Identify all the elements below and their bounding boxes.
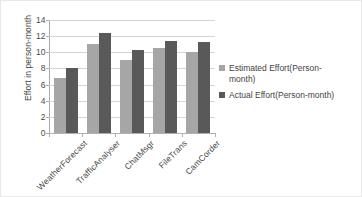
bar-trafficanalyser-actual	[99, 33, 111, 133]
bar-filetrans-estimated	[153, 48, 165, 133]
x-tick-mark-2	[115, 133, 116, 137]
y-tick-label-8: 8	[41, 63, 46, 73]
x-axis-tick-marks	[49, 133, 215, 137]
bar-filetrans-actual	[165, 41, 177, 133]
x-label-chatmsgr: ChatMsgr	[122, 138, 156, 172]
bar-group-camcorder	[182, 20, 215, 133]
legend-label: Estimated Effort(Person-month)	[229, 63, 341, 85]
bar-camcorder-estimated	[186, 52, 198, 133]
x-tick-mark-0	[49, 133, 50, 137]
x-tick-mark-3	[149, 133, 150, 137]
x-axis-category-labels: WeatherForecastTrafficAnalyserChatMsgrFi…	[49, 138, 215, 196]
legend-swatch-icon-estimated	[219, 65, 225, 71]
y-tick-label-10: 10	[36, 47, 45, 57]
bar-group-chatmsgr	[115, 20, 148, 133]
x-label-filetrans: FileTrans	[157, 138, 190, 171]
bar-group-weatherforecast	[49, 20, 82, 133]
plot-area: 02468101214	[49, 20, 215, 133]
bar-weatherforecast-actual	[66, 68, 78, 133]
y-tick-label-2: 2	[41, 112, 46, 122]
bar-chart: Effort in person-month 02468101214 Weath…	[0, 0, 362, 197]
bars-layer	[49, 20, 215, 133]
legend-swatch-icon-actual	[219, 92, 225, 98]
legend-label: Actual Effort(Person-month)	[229, 90, 341, 101]
x-label-camcorder: CamCorder	[183, 138, 222, 177]
bar-weatherforecast-estimated	[54, 78, 66, 133]
x-tick-mark-4	[182, 133, 183, 137]
y-tick-label-12: 12	[36, 31, 45, 41]
chart-legend: Estimated Effort(Person-month)Actual Eff…	[219, 63, 359, 106]
legend-entry-estimated: Estimated Effort(Person-month)	[219, 63, 359, 85]
x-tick-mark-1	[82, 133, 83, 137]
y-tick-label-14: 14	[36, 15, 45, 25]
bar-chatmsgr-estimated	[120, 60, 132, 133]
y-tick-label-6: 6	[41, 80, 46, 90]
y-tick-label-0: 0	[41, 128, 46, 138]
x-tick-mark-5	[215, 133, 216, 137]
y-axis-title: Effort in person-month	[23, 0, 33, 123]
bar-chatmsgr-actual	[132, 50, 144, 133]
bar-group-filetrans	[149, 20, 182, 133]
legend-entry-actual: Actual Effort(Person-month)	[219, 90, 359, 101]
bar-group-trafficanalyser	[82, 20, 115, 133]
bar-trafficanalyser-estimated	[87, 44, 99, 133]
bar-camcorder-actual	[198, 42, 210, 133]
y-tick-label-4: 4	[41, 96, 46, 106]
